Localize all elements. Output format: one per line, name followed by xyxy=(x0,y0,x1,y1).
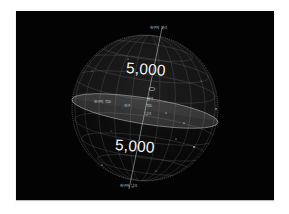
northern-hemisphere-value: 5,000 xyxy=(125,59,166,80)
center-bottom-label: 남극 xyxy=(145,111,151,116)
southern-hemisphere-value: 5,000 xyxy=(114,136,155,157)
south-pole-label: 천구의 남극 xyxy=(120,183,137,188)
north-pole-label: 천구의 북극 xyxy=(150,25,167,30)
center-mid-right-label: 적도 xyxy=(146,103,152,108)
equator-label: 천구의 적도 xyxy=(94,99,111,104)
center-mid-left-label: 지구 xyxy=(124,103,130,108)
celestial-sphere-diagram xyxy=(16,11,274,200)
center-top-label: 북극 xyxy=(147,96,153,101)
celestial-sphere-frame: 천구의 북극 천구의 남극 천구의 적도 북극 지구 적도 남극 5,000 5… xyxy=(16,11,274,200)
